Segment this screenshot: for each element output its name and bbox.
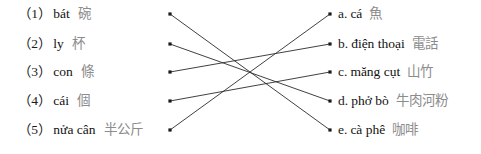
connection-node-R2[interactable] [328,42,331,45]
connection-line-L2-to-R4[interactable] [170,44,330,101]
right-item-letter: b. [338,37,348,51]
right-item-chinese-gloss: 牛肉河粉 [396,94,448,108]
connection-line-L4-to-R3[interactable] [170,72,330,101]
left-item-vietnamese: cái [53,94,69,108]
right-item-letter: e. [338,123,347,137]
right-item-vietnamese: điện thoại [351,37,405,51]
right-item-chinese-gloss: 咖啡 [392,123,418,137]
connection-node-R4[interactable] [328,99,331,102]
left-item-vietnamese: ly [53,37,64,51]
connection-node-L3[interactable] [168,70,171,73]
left-item-chinese-gloss: 杯 [72,37,85,51]
connection-node-L4[interactable] [168,99,171,102]
connection-line-L1-to-R5[interactable] [170,14,330,130]
left-item-number: （1） [18,7,51,21]
left-item-number: （4） [18,94,51,108]
left-item-number: （3） [18,65,51,79]
left-item-vietnamese: bát [53,7,70,21]
left-item-vietnamese: con [53,65,73,79]
connection-node-L1[interactable] [168,12,171,15]
connection-node-R3[interactable] [328,70,331,73]
matching-exercise: （1）bát碗（2）ly杯（3）con條（4）cái個（5）nửa cân半公斤… [0,0,481,154]
right-item-chinese-gloss: 山竹 [407,65,433,79]
connection-node-R1[interactable] [328,12,331,15]
right-item-chinese-gloss: 電話 [412,37,438,51]
right-item-vietnamese: phở bò [351,94,389,108]
right-item-vietnamese: cà phê [350,123,385,137]
right-item-letter: c. [338,65,347,79]
left-item-chinese-gloss: 個 [77,94,90,108]
right-item-chinese-gloss: 魚 [369,7,382,21]
right-item-vietnamese: cá [350,7,362,21]
right-item-letter: a. [338,7,347,21]
connection-node-R5[interactable] [328,128,331,131]
connection-node-L2[interactable] [168,42,171,45]
left-item-number: （2） [18,37,51,51]
left-item-vietnamese: nửa cân [53,123,95,137]
right-item-vietnamese: măng cụt [350,65,400,79]
connection-line-L3-to-R2[interactable] [170,44,330,72]
connection-line-L5-to-R1[interactable] [170,14,330,130]
left-item-number: （5） [18,123,51,137]
left-item-chinese-gloss: 條 [81,65,94,79]
left-item-chinese-gloss: 半公斤 [104,123,143,137]
right-column: a.cá魚b.điện thoại電話c.măng cụt山竹d.phở bò牛… [338,0,481,154]
connection-node-L5[interactable] [168,128,171,131]
left-column: （1）bát碗（2）ly杯（3）con條（4）cái個（5）nửa cân半公斤 [18,0,168,154]
left-item-chinese-gloss: 碗 [78,7,91,21]
right-item-letter: d. [338,94,348,108]
